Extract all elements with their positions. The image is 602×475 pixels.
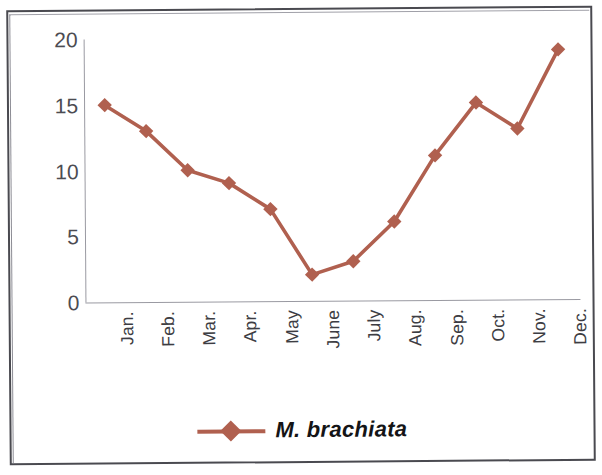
x-axis-tick-labels: Jan.Feb.Mar.Apr.MayJuneJulyAug.Sep.Oct.N… [85, 304, 581, 393]
series-line [104, 49, 559, 276]
x-axis-tick-label: Jan. [117, 311, 138, 345]
x-axis-tick-label: June [323, 310, 344, 349]
legend-series-label: M. brachiata [275, 416, 407, 443]
x-axis-tick-label: Oct. [488, 309, 509, 342]
diamond-marker-icon [220, 420, 241, 441]
legend-marker [197, 421, 265, 439]
x-axis-tick-label: July [364, 309, 385, 341]
data-series-layer [0, 0, 602, 475]
chart-figure: 05101520 Jan.Feb.Mar.Apr.MayJuneJulyAug.… [0, 0, 602, 475]
x-axis-tick-label: Feb. [158, 311, 179, 347]
x-axis-tick-label: May [282, 310, 303, 344]
x-axis-tick-label: Mar. [199, 311, 220, 346]
x-axis-tick-label: Dec. [570, 308, 591, 345]
x-axis-tick-label: Aug. [405, 309, 426, 346]
legend-entry: M. brachiata [197, 416, 407, 443]
data-point-marker [551, 42, 566, 57]
chart-legend: M. brachiata [1, 415, 602, 445]
chart-content: 05101520 Jan.Feb.Mar.Apr.MayJuneJulyAug.… [0, 0, 602, 475]
x-axis-tick-label: Nov. [529, 308, 550, 344]
x-axis-tick-label: Apr. [240, 310, 261, 342]
x-axis-tick-label: Sep. [447, 309, 468, 346]
